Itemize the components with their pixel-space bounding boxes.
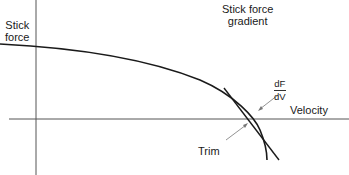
x-axis-label: Velocity [290, 104, 328, 116]
gradient-label-line2: gradient [222, 15, 273, 27]
trim-leader [226, 125, 246, 140]
gradient-label-line1: Stick force [222, 3, 273, 15]
derivative-denominator: dV [274, 92, 286, 102]
tangent-line [224, 88, 279, 160]
diagram-canvas [0, 0, 349, 175]
derivative-label: dF dV [274, 79, 286, 102]
y-axis-label: Stick force [5, 19, 29, 43]
trim-arrow-head [243, 123, 248, 128]
trim-label: Trim [198, 145, 220, 157]
stick-force-diagram: Stick force Stick force gradient dF dV V… [0, 0, 349, 175]
derivative-numerator: dF [274, 79, 286, 89]
stick-force-curve [0, 44, 267, 160]
y-axis-label-line2: force [5, 31, 29, 43]
gradient-label: Stick force gradient [222, 3, 273, 27]
y-axis-label-line1: Stick [5, 19, 29, 31]
